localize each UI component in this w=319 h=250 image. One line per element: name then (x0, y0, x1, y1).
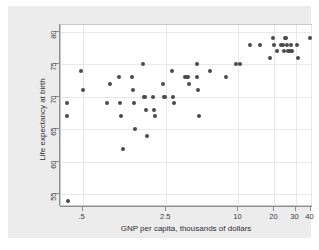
data-point (284, 36, 288, 40)
x-axis-title: GNP per capita, thousands of dollars (60, 224, 312, 233)
x-tick-label: 10 (233, 212, 241, 221)
data-point (161, 82, 165, 86)
data-point (289, 43, 293, 47)
x-tick-label: 30 (290, 212, 298, 221)
data-point (66, 199, 70, 203)
data-point (141, 62, 145, 66)
x-tick-mark (237, 207, 238, 211)
data-point (290, 49, 294, 53)
y-tick-label: 70 (49, 95, 58, 103)
data-point (163, 95, 167, 99)
data-point (238, 62, 242, 66)
x-tick-label: .5 (78, 212, 84, 221)
data-point (258, 43, 262, 47)
plot-canvas: 556065707580 .52.510203040 Life expectan… (8, 6, 311, 238)
data-point (275, 49, 279, 53)
data-point (153, 114, 157, 118)
y-tick-label: 75 (49, 63, 58, 71)
x-tick-mark (165, 207, 166, 211)
data-point (65, 114, 69, 118)
x-tick-label: 2.5 (160, 212, 170, 221)
gridline-vertical (83, 25, 84, 205)
data-point (152, 108, 156, 112)
data-point (81, 88, 85, 92)
gridline-vertical (296, 25, 297, 205)
data-point (295, 43, 299, 47)
data-point (117, 75, 121, 79)
data-point (105, 101, 109, 105)
data-point (224, 75, 228, 79)
data-point (197, 114, 201, 118)
data-point (131, 88, 135, 92)
data-point (172, 101, 176, 105)
data-point (196, 88, 200, 92)
data-point (208, 69, 212, 73)
data-point (296, 56, 300, 60)
gridline-vertical (238, 25, 239, 205)
data-point (186, 75, 190, 79)
data-point (119, 114, 123, 118)
data-point (130, 75, 134, 79)
data-point (268, 56, 272, 60)
x-tick-label: 40 (305, 212, 313, 221)
data-point (171, 95, 175, 99)
y-tick-label: 55 (49, 193, 58, 201)
data-point (195, 62, 199, 66)
data-point (187, 82, 191, 86)
y-tick-label: 60 (49, 160, 58, 168)
plot-region (60, 24, 312, 206)
scatter-plot-figure: 556065707580 .52.510203040 Life expectan… (0, 0, 319, 250)
data-point (108, 82, 112, 86)
data-point (170, 69, 174, 73)
data-point (195, 75, 199, 79)
y-axis-line (59, 24, 60, 206)
y-axis-title: Life expectancy at birth (38, 50, 47, 190)
x-tick-mark (273, 207, 274, 211)
data-point (121, 147, 125, 151)
data-point (79, 69, 83, 73)
data-point (144, 108, 148, 112)
x-tick-mark (310, 207, 311, 211)
x-tick-label: 20 (269, 212, 277, 221)
y-tick-label: 80 (49, 30, 58, 38)
data-point (145, 134, 149, 138)
data-point (308, 36, 312, 40)
gridline-vertical (311, 25, 312, 205)
data-point (248, 43, 252, 47)
data-point (118, 101, 122, 105)
gridline-vertical (166, 25, 167, 205)
data-point (65, 101, 69, 105)
data-point (151, 95, 155, 99)
y-tick-label: 65 (49, 128, 58, 136)
data-point (272, 43, 276, 47)
data-point (133, 127, 137, 131)
data-point (282, 49, 286, 53)
x-tick-mark (295, 207, 296, 211)
x-tick-mark (82, 207, 83, 211)
data-point (143, 95, 147, 99)
data-point (132, 101, 136, 105)
